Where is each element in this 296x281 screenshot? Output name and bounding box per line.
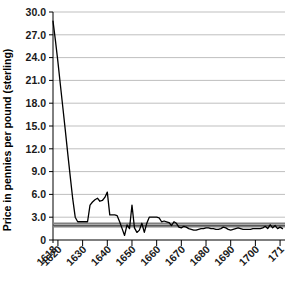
y-axis-tick-label: 0 [40, 234, 46, 246]
y-axis-tick-label: 9.0 [31, 165, 46, 177]
line-chart: 30.027.024.021.018.015.012.09.06.03.00 1… [0, 0, 296, 281]
y-axis-tick-label: 12.0 [26, 143, 47, 155]
y-axis-tick-label: 3.0 [31, 211, 46, 223]
y-axis-tick-label: 6.0 [31, 188, 46, 200]
reference-lines [53, 223, 285, 226]
y-axis-tick-label: 24.0 [26, 51, 47, 63]
y-axis-tick-label: 18.0 [26, 97, 47, 109]
y-axis-tick-label: 21.0 [26, 74, 47, 86]
y-axis-tick-label: 15.0 [26, 120, 47, 132]
chart-container: 30.027.024.021.018.015.012.09.06.03.00 1… [0, 0, 296, 281]
y-axis-title: Price in pennies per pound (sterling) [1, 49, 13, 232]
y-axis-tick-label: 27.0 [26, 29, 47, 41]
y-axis-tick-label: 30.0 [26, 6, 47, 18]
